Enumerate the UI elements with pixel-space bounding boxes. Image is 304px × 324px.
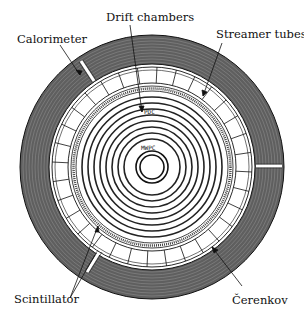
mwpc-label: MWPC <box>141 145 155 151</box>
calorimeter-label: Calorimeter <box>17 34 87 46</box>
calorimeter-ring <box>20 35 284 299</box>
drift-chambers-label: Drift chambers <box>106 12 194 24</box>
scintillator-label: Scintillator <box>14 294 79 306</box>
cerenkov-label: Čerenkov <box>232 295 288 307</box>
detector-diagram <box>0 0 304 324</box>
streamer-tubes-label: Streamer tubes <box>216 29 304 41</box>
pdc-label: PDC <box>144 109 155 115</box>
